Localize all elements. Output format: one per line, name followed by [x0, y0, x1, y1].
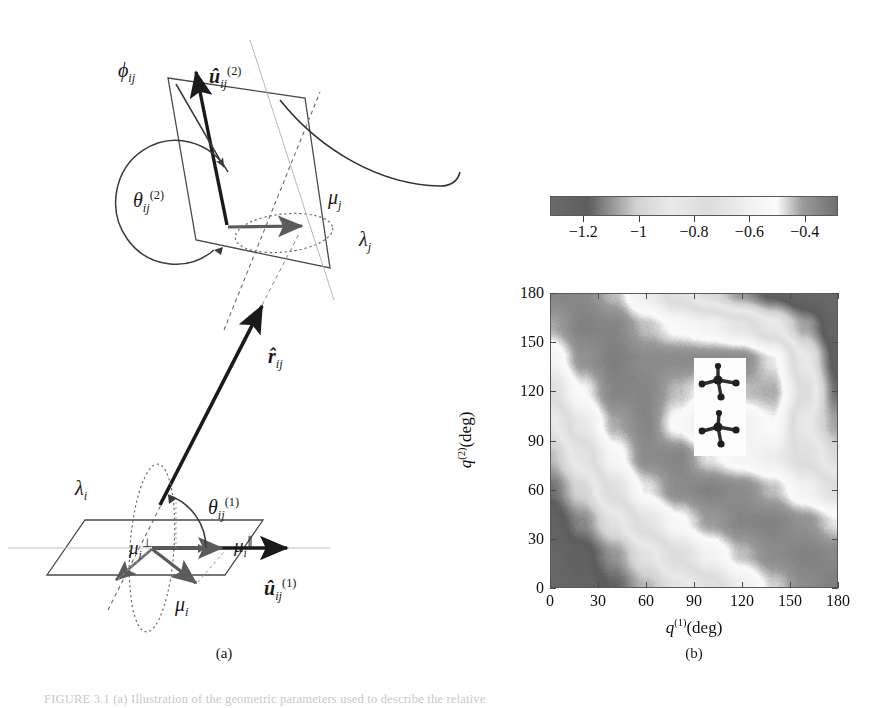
- y-axis-tick: [550, 588, 556, 589]
- y-axis-tick: [550, 539, 556, 540]
- x-axis-tick: [742, 582, 743, 588]
- y-axis-tick: [550, 391, 556, 392]
- r-hat-upper-dashed: [262, 232, 300, 305]
- lambda-j-ellipse: [233, 209, 334, 257]
- label-mu-i-parallel: μi∥: [234, 534, 253, 561]
- x-tick-label: 90: [686, 592, 702, 610]
- label-theta-ij-2: θij(2): [133, 188, 164, 216]
- panel-a-caption: (a): [216, 645, 233, 662]
- colorbar-tick: [639, 216, 640, 222]
- colorbar-tick-labels: −1.2−1−0.8−0.6−0.4: [470, 223, 877, 245]
- y-tick-label: 0: [536, 579, 544, 597]
- figure-root: ϕij ûij(2) θij(2) μj λj r̂ij λi θij(1) μ…: [0, 0, 877, 708]
- y-axis-tick: [832, 441, 838, 442]
- colorbar-container: [550, 196, 838, 216]
- heatmap-plot-area: [550, 293, 838, 588]
- y-tick-label: 60: [528, 481, 544, 499]
- x-tick-label: 120: [730, 592, 754, 610]
- x-axis-tick: [694, 293, 695, 299]
- mu-j-arrow: [228, 226, 302, 227]
- molecule-pair-inset: [694, 358, 746, 456]
- x-axis-tick: [694, 582, 695, 588]
- x-tick-label: 150: [778, 592, 802, 610]
- y-axis-tick: [550, 490, 556, 491]
- theta-1-arc: [168, 495, 206, 548]
- colorbar-tick-label: −1: [630, 223, 647, 241]
- u-hat-2-arrow: [196, 72, 227, 225]
- theta-1-arc-head-b: [198, 544, 206, 553]
- y-tick-label: 30: [528, 530, 544, 548]
- label-u-hat-1: ûij(1): [264, 576, 296, 604]
- y-axis-tick: [832, 490, 838, 491]
- label-r-hat-ij: r̂ij: [268, 345, 283, 372]
- colorbar-tick: [749, 216, 750, 222]
- label-mu-i: μi: [175, 593, 189, 620]
- x-axis-tick: [838, 582, 839, 588]
- panel-b-caption: (b): [685, 645, 703, 662]
- panel-b-heatmap: −1.2−1−0.8−0.6−0.4: [470, 0, 877, 660]
- y-tick-label: 120: [520, 382, 544, 400]
- y-tick-label: 150: [520, 333, 544, 351]
- y-tick-label: 90: [528, 432, 544, 450]
- x-tick-label: 60: [638, 592, 654, 610]
- x-axis-title: q(1)(deg): [666, 617, 723, 638]
- label-mu-i-perp: μi⊥: [129, 536, 152, 563]
- colorbar-tick: [694, 216, 695, 222]
- label-mu-j: μj: [328, 186, 342, 213]
- mu-i-arrow: [152, 549, 196, 583]
- colorbar-tick-label: −1.2: [569, 223, 598, 241]
- y-axis-tick: [832, 293, 838, 294]
- y-axis-tick: [550, 293, 556, 294]
- y-axis-tick: [550, 441, 556, 442]
- y-axis-tick: [832, 539, 838, 540]
- x-axis-tick: [790, 293, 791, 299]
- label-theta-ij-1: θij(1): [208, 495, 239, 523]
- x-axis-tick: [742, 293, 743, 299]
- panel-a-vector-diagram: ϕij ûij(2) θij(2) μj λj r̂ij λi θij(1) μ…: [0, 0, 470, 660]
- x-axis-tick: [598, 582, 599, 588]
- label-phi-ij: ϕij: [118, 59, 135, 86]
- x-tick-labels: 0306090120150180: [550, 592, 838, 614]
- x-axis-tick: [646, 582, 647, 588]
- colorbar-tick-label: −0.6: [735, 223, 764, 241]
- label-lambda-j: λj: [359, 228, 371, 255]
- y-tick-label: 180: [520, 284, 544, 302]
- energy-colorbar: [550, 196, 838, 216]
- y-tick-labels: 0306090120150180: [480, 293, 544, 588]
- label-lambda-i: λi: [75, 477, 87, 504]
- y-axis-title: q(2)(deg): [456, 412, 477, 469]
- theta-2-arc-head: [214, 247, 223, 255]
- y-axis-tick: [550, 342, 556, 343]
- r-hat-ij-arrow: [160, 306, 262, 505]
- colorbar-tick-label: −0.4: [790, 223, 819, 241]
- x-axis-tick: [790, 582, 791, 588]
- x-tick-label: 180: [826, 592, 850, 610]
- upper-plane: [168, 78, 330, 268]
- x-tick-label: 0: [546, 592, 554, 610]
- x-axis-tick: [598, 293, 599, 299]
- label-u-hat-2: ûij(2): [209, 64, 241, 92]
- y-axis-tick: [832, 588, 838, 589]
- x-tick-label: 30: [590, 592, 606, 610]
- mu-decomp-dashed: [198, 552, 224, 582]
- x-axis-tick: [646, 293, 647, 299]
- colorbar-tick: [805, 216, 806, 222]
- colorbar-tick-label: −0.8: [679, 223, 708, 241]
- y-axis-tick: [832, 391, 838, 392]
- y-axis-tick: [832, 342, 838, 343]
- upper-axis-light: [250, 40, 334, 300]
- figure-caption: FIGURE 3.1 (a) Illustration of the geome…: [44, 692, 844, 706]
- x-axis-tick: [838, 293, 839, 299]
- colorbar-tick: [583, 216, 584, 222]
